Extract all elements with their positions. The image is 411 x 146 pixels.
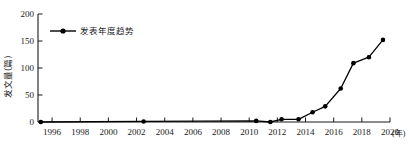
x-tick-label: 2016 bbox=[325, 127, 344, 137]
x-tick-label: 1996 bbox=[43, 127, 62, 137]
data-point-marker bbox=[254, 119, 259, 124]
x-tick-label: 2000 bbox=[99, 127, 118, 137]
series-line bbox=[41, 40, 383, 122]
data-point-marker bbox=[310, 110, 315, 115]
y-tick-label: 0 bbox=[30, 117, 35, 127]
x-axis-tick-labels: 1996199820002002200420062008201020122014… bbox=[43, 127, 399, 137]
x-tick-label: 2006 bbox=[184, 127, 203, 137]
x-tick-label: 2002 bbox=[128, 127, 146, 137]
data-point-marker bbox=[367, 55, 372, 60]
x-tick-label: 2018 bbox=[353, 127, 372, 137]
x-axis-label: (年) bbox=[392, 128, 406, 138]
y-tick-label: 50 bbox=[25, 90, 35, 100]
data-series-group bbox=[39, 38, 386, 125]
x-tick-label: 2012 bbox=[268, 127, 286, 137]
x-tick-label: 2014 bbox=[297, 127, 316, 137]
legend-marker-icon bbox=[60, 28, 65, 33]
publication-trend-chart: 发文量(篇) 050100150200 19961998200020022004… bbox=[0, 0, 411, 146]
x-tick-label: 1998 bbox=[71, 127, 90, 137]
x-tick-label: 2008 bbox=[212, 127, 231, 137]
chart-legend: 发表年度趋势 bbox=[50, 26, 134, 36]
data-point-marker bbox=[39, 120, 44, 125]
x-tick-label: 2004 bbox=[156, 127, 175, 137]
legend-item-label: 发表年度趋势 bbox=[80, 26, 134, 36]
data-point-marker bbox=[338, 86, 343, 91]
y-axis-label: 发文量(篇) bbox=[3, 55, 13, 98]
data-point-marker bbox=[351, 61, 356, 66]
data-point-marker bbox=[296, 117, 301, 122]
x-tick-label: 2010 bbox=[240, 127, 259, 137]
chart-canvas: 发文量(篇) 050100150200 19961998200020022004… bbox=[0, 0, 411, 146]
y-axis-tick-marks bbox=[38, 14, 43, 122]
data-point-marker bbox=[279, 117, 284, 122]
y-tick-label: 100 bbox=[21, 63, 35, 73]
data-point-marker bbox=[268, 120, 273, 125]
data-point-marker bbox=[381, 38, 386, 43]
y-axis-tick-labels: 050100150200 bbox=[21, 9, 35, 127]
data-point-marker bbox=[323, 104, 328, 109]
data-point-marker bbox=[141, 119, 146, 124]
y-tick-label: 200 bbox=[21, 9, 35, 19]
y-tick-label: 150 bbox=[21, 36, 35, 46]
